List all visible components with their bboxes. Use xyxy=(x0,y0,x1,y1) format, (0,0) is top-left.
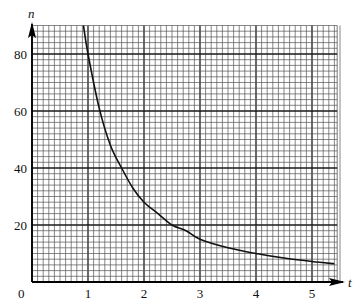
y-axis-label: n xyxy=(28,6,35,21)
data-curve xyxy=(83,26,334,264)
y-tick-label: 20 xyxy=(14,218,27,233)
x-axis-label: t xyxy=(348,275,352,290)
y-tick-label: 60 xyxy=(14,104,27,119)
y-tick-label: 40 xyxy=(14,161,27,176)
chart: 1234520406080 t n 0 xyxy=(0,0,362,306)
axes xyxy=(28,22,345,286)
x-tick-label: 3 xyxy=(197,286,204,301)
origin-label: 0 xyxy=(18,286,25,301)
x-tick-label: 2 xyxy=(141,286,148,301)
x-tick-label: 4 xyxy=(253,286,260,301)
grid xyxy=(32,26,340,283)
x-tick-label: 5 xyxy=(309,286,316,301)
y-tick-label: 80 xyxy=(14,47,27,62)
x-tick-label: 1 xyxy=(85,286,92,301)
